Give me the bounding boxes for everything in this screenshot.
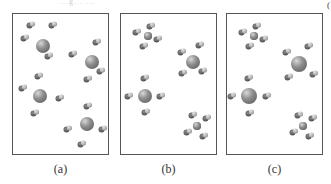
ligand-molecule (93, 38, 102, 45)
ligand-molecule (157, 92, 166, 99)
ligand-molecule (200, 132, 209, 139)
panel-a (12, 13, 109, 155)
central-atom (186, 55, 200, 69)
ligand-molecule (306, 132, 315, 139)
ligand-molecule (78, 140, 87, 147)
ligand-molecule (133, 28, 142, 35)
ligand-molecule (199, 67, 208, 74)
ligand-molecule (285, 73, 294, 80)
ligand-molecule (263, 92, 272, 99)
ligand-molecule (295, 111, 304, 118)
ligand-molecule (49, 21, 58, 28)
molecule-diagram-a (13, 14, 110, 156)
top-caption-fragment: ...g... ... (0, 0, 331, 4)
central-atom (250, 32, 258, 40)
molecule-cluster (184, 111, 212, 139)
molecule-cluster (21, 21, 58, 59)
central-atom (241, 88, 257, 104)
ligand-molecule (31, 109, 40, 116)
ligand-molecule (27, 21, 36, 28)
ligand-molecule (179, 69, 188, 76)
molecule-cluster (64, 102, 108, 147)
ligand-molecule (142, 108, 151, 115)
ligand-molecule (97, 67, 106, 74)
ligand-molecule (141, 74, 150, 81)
molecule-cluster (178, 41, 208, 76)
ligand-molecule (260, 35, 269, 42)
ligand-molecule (178, 48, 187, 55)
ligand-molecule (246, 109, 255, 116)
ligand-molecule (189, 111, 198, 118)
central-atom (299, 122, 307, 130)
ligand-molecule (154, 35, 163, 42)
ligand-molecule (309, 114, 318, 121)
ligand-molecule (99, 125, 108, 132)
ligand-molecule (64, 125, 73, 132)
ligand-molecule (290, 128, 299, 135)
molecule-cluster (228, 74, 272, 116)
panel-label-a: (a) (12, 162, 109, 177)
molecule-diagram-b (121, 14, 218, 156)
molecule-cluster (283, 42, 319, 80)
molecule-diagram-c (227, 14, 324, 156)
ligand-molecule (196, 41, 205, 48)
ligand-molecule (239, 28, 248, 35)
ligand-molecule (228, 92, 237, 99)
ligand-molecule (184, 128, 193, 135)
panel-label-b: (b) (120, 162, 217, 177)
molecule-cluster (133, 22, 163, 49)
central-atom (291, 56, 307, 72)
central-atom (144, 32, 152, 40)
ligand-molecule (253, 22, 262, 29)
top-right-mark: ( (327, 0, 330, 10)
ligand-molecule (56, 94, 65, 101)
ligand-molecule (147, 22, 156, 29)
ligand-molecule (305, 42, 314, 49)
ligand-molecule (35, 72, 44, 79)
central-atom (36, 39, 50, 53)
ligand-molecule (84, 102, 93, 109)
molecule-cluster (125, 74, 166, 115)
ligand-molecule (19, 84, 28, 91)
molecule-cluster (290, 111, 318, 139)
ligand-molecule (140, 42, 149, 49)
molecule-cluster (239, 22, 269, 49)
central-atom (193, 122, 201, 130)
central-atom (138, 89, 152, 103)
ligand-molecule (84, 75, 93, 82)
panel-label-c: (c) (226, 162, 323, 177)
ligand-molecule (246, 42, 255, 49)
ligand-molecule (45, 52, 54, 59)
ligand-molecule (203, 114, 212, 121)
ligand-molecule (21, 34, 30, 41)
central-atom (33, 89, 47, 103)
molecule-cluster (69, 38, 106, 82)
ligand-molecule (125, 92, 134, 99)
ligand-molecule (69, 50, 78, 57)
central-atom (80, 117, 94, 131)
molecule-cluster (19, 72, 65, 116)
ligand-molecule (283, 48, 292, 55)
ligand-molecule (245, 74, 254, 81)
ligand-molecule (310, 70, 319, 77)
panel-c (226, 13, 323, 155)
panel-b (120, 13, 217, 155)
central-atom (85, 55, 99, 69)
